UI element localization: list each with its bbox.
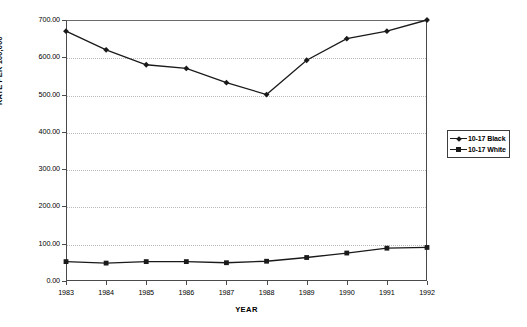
legend-item: 10-17 Black [450, 133, 506, 144]
gridline [67, 96, 426, 97]
y-tick-label: 700.00 [4, 16, 60, 24]
y-tick-mark [62, 57, 66, 58]
x-tick-label: 1989 [287, 288, 327, 297]
legend-item-label: 10-17 Black [467, 135, 505, 142]
legend-item: 10-17 White [450, 144, 506, 155]
gridline [67, 58, 426, 59]
x-tick-label: 1992 [407, 288, 447, 297]
y-tick-label: 200.00 [4, 202, 60, 210]
x-tick-label: 1990 [327, 288, 367, 297]
line-chart: 0.00100.00200.00300.00400.00500.00600.00… [0, 0, 527, 327]
x-tick-mark [66, 281, 67, 285]
x-tick-label: 1984 [86, 288, 126, 297]
x-tick-mark [106, 281, 107, 285]
gridline [67, 245, 426, 246]
x-tick-label: 1983 [46, 288, 86, 297]
x-tick-mark [226, 281, 227, 285]
x-tick-label: 1986 [166, 288, 206, 297]
x-tick-mark [307, 281, 308, 285]
x-tick-label: 1991 [367, 288, 407, 297]
legend-item-label: 10-17 White [467, 146, 506, 153]
y-tick-mark [62, 206, 66, 207]
y-tick-label: 100.00 [4, 240, 60, 248]
legend-diamond-marker-icon [450, 133, 467, 144]
x-tick-mark [387, 281, 388, 285]
y-tick-label: 400.00 [4, 128, 60, 136]
y-axis-title: RATE PER 100,000 [0, 0, 4, 105]
y-tick-mark [62, 132, 66, 133]
x-tick-mark [347, 281, 348, 285]
y-tick-label: 300.00 [4, 165, 60, 173]
x-tick-mark [267, 281, 268, 285]
y-tick-mark [62, 95, 66, 96]
legend-square-marker-icon [450, 144, 467, 155]
y-tick-label: 600.00 [4, 53, 60, 61]
y-tick-mark [62, 20, 66, 21]
x-axis-title: YEAR [66, 305, 427, 314]
x-tick-label: 1985 [126, 288, 166, 297]
x-tick-mark [186, 281, 187, 285]
gridline [67, 170, 426, 171]
x-tick-mark [146, 281, 147, 285]
gridline [67, 133, 426, 134]
y-tick-mark [62, 169, 66, 170]
y-tick-mark [62, 244, 66, 245]
gridline [67, 207, 426, 208]
x-tick-label: 1987 [206, 288, 246, 297]
y-tick-label: 0.00 [4, 277, 60, 285]
x-tick-mark [427, 281, 428, 285]
x-tick-label: 1988 [247, 288, 287, 297]
y-tick-label: 500.00 [4, 91, 60, 99]
legend: 10-17 Black10-17 White [447, 130, 510, 158]
plot-area [66, 20, 427, 281]
